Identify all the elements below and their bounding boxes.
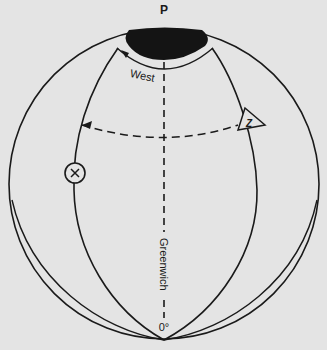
- west-label: West: [129, 67, 156, 84]
- pole-label: P: [160, 3, 168, 17]
- celestial-sphere-diagram: Z P West Greenwich 0°: [0, 0, 327, 350]
- greenwich-label: Greenwich: [158, 238, 170, 291]
- zenith-label: Z: [245, 118, 253, 129]
- hour-circle-right: [164, 48, 257, 340]
- hour-angle-arc: [82, 125, 238, 138]
- hour-circle-left: [74, 48, 164, 340]
- hour-angle-arrow-icon: [82, 121, 92, 129]
- meridian-degree-label: 0°: [159, 321, 170, 333]
- polar-cap: [126, 28, 208, 61]
